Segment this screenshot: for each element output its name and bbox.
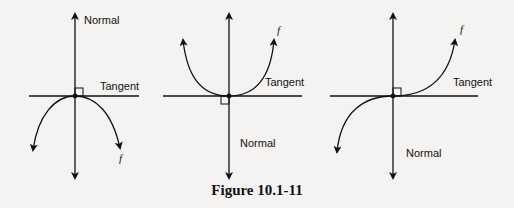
figure-caption: Figure 10.1-11: [0, 182, 514, 199]
curve-right: [393, 40, 455, 96]
panel-concave-down: [29, 14, 139, 178]
figure-diagrams: Normal Tangent f Tangent Normal f Tangen…: [0, 0, 514, 208]
tangent-label: Tangent: [100, 80, 139, 92]
normal-label: Normal: [84, 14, 119, 26]
curve-left: [183, 40, 229, 96]
curve-left: [33, 96, 75, 150]
panel-inflection: [330, 14, 478, 178]
normal-label: Normal: [240, 137, 275, 149]
function-label: f: [119, 152, 124, 164]
tangent-label: Tangent: [453, 76, 492, 88]
function-label: f: [277, 24, 282, 36]
curve-left: [337, 96, 393, 152]
function-label: f: [460, 23, 465, 35]
curve-right: [75, 96, 120, 148]
tangent-label: Tangent: [265, 76, 304, 88]
normal-label: Normal: [406, 147, 441, 159]
panel-concave-up: [163, 14, 302, 178]
